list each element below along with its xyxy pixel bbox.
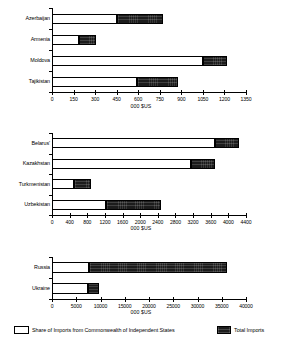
x-tick bbox=[246, 297, 247, 302]
plot-area-3: 0500010000150002000025000300003500040000… bbox=[52, 257, 246, 299]
y-tick bbox=[49, 71, 53, 72]
x-tick bbox=[87, 213, 88, 218]
chart-panel-3: 0500010000150002000025000300003500040000… bbox=[0, 235, 282, 320]
legend-item-total: Total Imports bbox=[217, 326, 264, 334]
legend-swatch-share-icon bbox=[14, 326, 29, 334]
plot-area-2: 0400800120016002000240028003200360040004… bbox=[52, 133, 246, 215]
bar-segment-total bbox=[74, 179, 91, 189]
x-tick-label: 1200 bbox=[212, 96, 236, 102]
y-tick bbox=[49, 299, 53, 300]
x-tick bbox=[123, 213, 124, 218]
bar-segment-share bbox=[52, 56, 203, 66]
category-label: Moldova bbox=[2, 57, 50, 64]
y-tick bbox=[49, 174, 53, 175]
x-tick bbox=[246, 90, 247, 95]
y-tick bbox=[49, 92, 53, 93]
x-tick bbox=[149, 297, 150, 302]
bar-segment-total bbox=[215, 138, 239, 148]
bar-segment-total bbox=[106, 200, 161, 210]
x-tick bbox=[125, 297, 126, 302]
x-tick-label: 450 bbox=[105, 96, 129, 102]
bar-segment-total bbox=[79, 35, 96, 45]
bar-segment-total bbox=[88, 283, 99, 294]
x-tick bbox=[138, 90, 139, 95]
category-label: Armenia bbox=[2, 36, 50, 43]
x-tick-label: 300 bbox=[83, 96, 107, 102]
y-tick bbox=[49, 29, 53, 30]
y-tick bbox=[49, 50, 53, 51]
x-axis-title-1: 000 $US bbox=[0, 103, 282, 110]
legend-item-share: Share of Imports from Commonwealth of In… bbox=[14, 326, 175, 334]
bar-segment-total bbox=[137, 77, 179, 87]
imports-chart-figure: 0150300450600750900105012001350Azerbaija… bbox=[0, 0, 282, 347]
chart-panel-1: 0150300450600750900105012001350Azerbaija… bbox=[0, 0, 282, 115]
y-tick bbox=[49, 8, 53, 9]
bar-segment-share bbox=[52, 77, 137, 87]
chart-panel-2: 0400800120016002000240028003200360040004… bbox=[0, 115, 282, 235]
x-tick bbox=[224, 90, 225, 95]
y-tick bbox=[49, 278, 53, 279]
chart-legend: Share of Imports from Commonwealth of In… bbox=[0, 324, 282, 340]
category-label: Kazakhstan bbox=[2, 160, 50, 167]
x-tick bbox=[228, 213, 229, 218]
x-tick bbox=[211, 213, 212, 218]
x-axis-line bbox=[52, 215, 247, 216]
x-tick-label: 150 bbox=[62, 96, 86, 102]
x-tick bbox=[95, 90, 96, 95]
x-tick bbox=[175, 213, 176, 218]
bar-segment-total bbox=[191, 159, 215, 169]
category-label: Azerbaijan bbox=[2, 15, 50, 22]
y-tick bbox=[49, 154, 53, 155]
bar-segment-share bbox=[52, 262, 89, 273]
bar-segment-total bbox=[117, 14, 163, 24]
x-tick bbox=[158, 213, 159, 218]
x-axis-title-2: 000 $US bbox=[0, 225, 282, 232]
bar-segment-total bbox=[203, 56, 227, 66]
bar-segment-share bbox=[52, 35, 79, 45]
bar-segment-share bbox=[52, 283, 88, 294]
x-tick bbox=[105, 213, 106, 218]
x-tick bbox=[74, 90, 75, 95]
legend-swatch-total-icon bbox=[217, 326, 231, 334]
x-tick-label: 1350 bbox=[234, 96, 258, 102]
bar-segment-share bbox=[52, 138, 215, 148]
x-tick bbox=[117, 90, 118, 95]
category-label: Belarus' bbox=[2, 140, 50, 147]
x-tick-label: 0 bbox=[40, 96, 64, 102]
bar-segment-total bbox=[89, 262, 226, 273]
category-label: Uzbekistan bbox=[2, 201, 50, 208]
x-tick-label: 750 bbox=[148, 96, 172, 102]
x-tick bbox=[140, 213, 141, 218]
x-axis-title-3: 000 $US bbox=[0, 309, 282, 316]
y-tick bbox=[49, 195, 53, 196]
x-tick bbox=[198, 297, 199, 302]
x-tick bbox=[222, 297, 223, 302]
x-tick-label: 1050 bbox=[191, 96, 215, 102]
category-label: Ukraine bbox=[2, 285, 50, 292]
y-tick bbox=[49, 215, 53, 216]
y-tick bbox=[49, 257, 53, 258]
x-tick bbox=[246, 213, 247, 218]
x-tick bbox=[70, 213, 71, 218]
x-tick bbox=[76, 297, 77, 302]
category-label: Russia bbox=[2, 264, 50, 271]
x-tick bbox=[193, 213, 194, 218]
bar-segment-share bbox=[52, 159, 191, 169]
legend-label-share: Share of Imports from Commonwealth of In… bbox=[32, 326, 175, 334]
x-tick bbox=[101, 297, 102, 302]
category-label: Turkmenistan bbox=[2, 181, 50, 188]
x-tick bbox=[203, 90, 204, 95]
category-label: Tajikistan bbox=[2, 78, 50, 85]
bar-segment-share bbox=[52, 179, 74, 189]
bar-segment-share bbox=[52, 14, 117, 24]
x-tick bbox=[160, 90, 161, 95]
bar-segment-share bbox=[52, 200, 106, 210]
x-tick bbox=[181, 90, 182, 95]
plot-area-1: 0150300450600750900105012001350Azerbaija… bbox=[52, 8, 246, 92]
x-tick-label: 600 bbox=[126, 96, 150, 102]
x-axis-line bbox=[52, 92, 247, 93]
x-tick-label: 900 bbox=[169, 96, 193, 102]
y-tick bbox=[49, 133, 53, 134]
x-tick bbox=[173, 297, 174, 302]
legend-label-total: Total Imports bbox=[234, 326, 264, 334]
